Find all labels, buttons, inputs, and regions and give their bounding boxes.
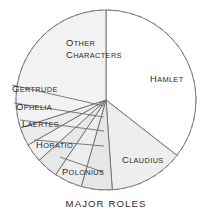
pie-slices-group <box>16 10 196 190</box>
cropped-text-fragment <box>24 0 94 5</box>
slice-label-laertes: LAERTES <box>22 118 59 129</box>
slice-label-horatio: HORATIO <box>36 139 73 150</box>
slice-label-ophelia: OPHELIA <box>16 101 52 112</box>
slice-label-polonius: POLONIUS <box>62 166 104 177</box>
pie-chart-figure: HAMLETCLAUDIUSPOLONIUSHORATIOLAERTESOPHE… <box>0 0 211 220</box>
slice-label-gertrude: GERTRUDE <box>12 83 58 94</box>
slice-label-hamlet: HAMLET <box>150 73 184 84</box>
pie-chart-svg: HAMLETCLAUDIUSPOLONIUSHORATIOLAERTESOPHE… <box>0 0 211 220</box>
chart-caption: MAJOR ROLES <box>66 198 147 209</box>
slice-label-claudius: CLAUDIUS <box>122 154 164 165</box>
